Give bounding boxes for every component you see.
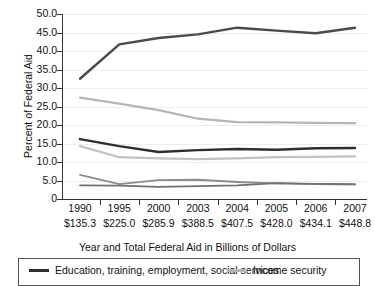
legend-swatch-education <box>29 269 49 272</box>
y-axis-tick-label: 45.0 <box>11 26 57 38</box>
series-top-health <box>80 28 355 79</box>
y-axis-tick-label: 30.0 <box>11 81 57 93</box>
x-axis-tick <box>296 200 297 205</box>
x-axis-dollar-label: $428.0 <box>260 217 292 229</box>
y-axis-tick-label: 15.0 <box>11 137 57 149</box>
x-axis-tick <box>335 200 336 205</box>
y-axis-tick-label: 20.0 <box>11 118 57 130</box>
x-axis-tick <box>218 200 219 205</box>
series-lines <box>62 14 367 199</box>
x-axis-title: Year and Total Federal Aid in Billions o… <box>0 241 375 253</box>
x-axis-year-label: 2003 <box>186 202 209 214</box>
x-axis-dollar-label: $434.1 <box>300 217 332 229</box>
x-axis-dollar-label: $225.0 <box>103 217 135 229</box>
y-axis-tick-label: 35.0 <box>11 63 57 75</box>
y-axis-tick-label: 0 <box>11 192 57 204</box>
x-axis-dollar-label: $285.9 <box>143 217 175 229</box>
series-income-security <box>80 98 355 124</box>
y-axis-tick <box>57 199 62 200</box>
x-axis-tick <box>178 200 179 205</box>
x-axis-dollar-label: $448.8 <box>339 217 371 229</box>
legend-label-income-security: Income security <box>253 264 327 276</box>
x-axis-year-label: 2000 <box>147 202 170 214</box>
plot-area <box>62 14 367 199</box>
x-axis-year-label: 2004 <box>225 202 248 214</box>
y-axis-tick-label: 5.0 <box>11 174 57 186</box>
x-axis-year-label: 1990 <box>68 202 91 214</box>
y-axis-tick-label: 10.0 <box>11 155 57 167</box>
x-axis-tick <box>139 200 140 205</box>
legend-item-income-security: Income security <box>227 264 327 276</box>
x-axis-line <box>62 199 367 200</box>
x-axis-year-label: 1995 <box>108 202 131 214</box>
x-axis-year-label: 2005 <box>265 202 288 214</box>
series-education-training-employment-social-services <box>80 139 355 152</box>
chart-legend: Education, training, employment, social … <box>18 258 360 286</box>
legend-swatch-income-security <box>227 269 247 272</box>
x-axis-dollar-label: $135.3 <box>64 217 96 229</box>
y-axis-tick-label: 25.0 <box>11 100 57 112</box>
x-axis-dollar-label: $407.5 <box>221 217 253 229</box>
y-axis-tick-label: 50.0 <box>11 7 57 19</box>
y-axis-tick-label: 40.0 <box>11 44 57 56</box>
x-axis-dollar-label: $388.5 <box>182 217 214 229</box>
x-axis-year-label: 2006 <box>304 202 327 214</box>
x-axis-tick <box>100 200 101 205</box>
x-axis-tick <box>257 200 258 205</box>
x-axis-year-label: 2007 <box>343 202 366 214</box>
